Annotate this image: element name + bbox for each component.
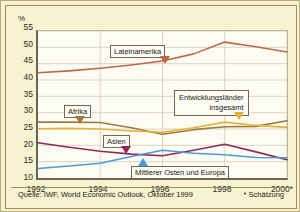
source-text: Quelle: IWF, World Economic Outlook, Okt…: [18, 190, 193, 199]
y-tick-30: 30: [7, 106, 33, 114]
callout-arrow-lateinamerika-icon: [160, 56, 170, 64]
callout-arrow-afrika-icon: [75, 116, 85, 124]
chart-frame-inner: % 55 50 45 40 35 30 25 20 15 10 1992 199…: [5, 5, 297, 209]
callout-arrow-asien-icon: [121, 146, 131, 154]
y-axis: 55 50 45 40 35 30 25 20 15 10: [6, 6, 33, 212]
callout-arrow-mittlerer-osten-icon: [138, 158, 148, 166]
y-tick-25: 25: [7, 123, 33, 131]
callout-arrow-entwicklungslaender-icon: [234, 112, 244, 120]
y-tick-15: 15: [7, 156, 33, 164]
chart-frame-outer: % 55 50 45 40 35 30 25 20 15 10 1992 199…: [0, 0, 300, 212]
y-tick-20: 20: [7, 140, 33, 148]
callout-lateinamerika: Lateinamerika: [110, 45, 165, 58]
y-tick-10: 10: [7, 173, 33, 181]
callout-entwicklungslaender-line1: Entwicklungsländer: [179, 93, 244, 102]
footer-bar: Quelle: IWF, World Economic Outlook, Okt…: [11, 187, 291, 203]
callout-entwicklungslaender-line2: insgesamt: [209, 103, 243, 112]
callout-mittlerer-osten: Mittlerer Osten und Europa: [131, 166, 229, 179]
y-tick-50: 50: [7, 40, 33, 48]
footer-divider: [11, 187, 291, 188]
y-tick-35: 35: [7, 90, 33, 98]
y-tick-40: 40: [7, 73, 33, 81]
y-tick-55: 55: [7, 23, 33, 31]
y-tick-45: 45: [7, 56, 33, 64]
estimate-note: * Schätzung: [244, 190, 284, 199]
